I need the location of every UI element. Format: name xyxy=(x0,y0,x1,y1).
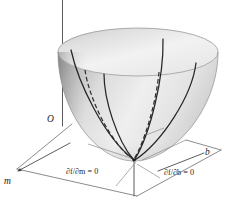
partial-m-label: ∂f/∂m = 0 xyxy=(66,167,98,176)
leader-partial-b xyxy=(137,164,160,178)
paraboloid-diagram: O m b ∂f/∂m = 0 ∂f/∂b = 0 xyxy=(0,0,225,202)
paraboloid-surface xyxy=(52,28,220,170)
base-edge-back-right xyxy=(186,140,221,150)
paraboloid-vertex-point xyxy=(132,158,135,161)
axis-m-label: m xyxy=(4,176,11,186)
figure-root: O m b ∂f/∂m = 0 ∂f/∂b = 0 xyxy=(0,0,225,202)
origin-label: O xyxy=(47,114,54,124)
axis-b-label: b xyxy=(205,147,210,157)
leader-partial-m xyxy=(116,162,136,186)
partial-b-label: ∂f/∂b = 0 xyxy=(164,168,194,177)
